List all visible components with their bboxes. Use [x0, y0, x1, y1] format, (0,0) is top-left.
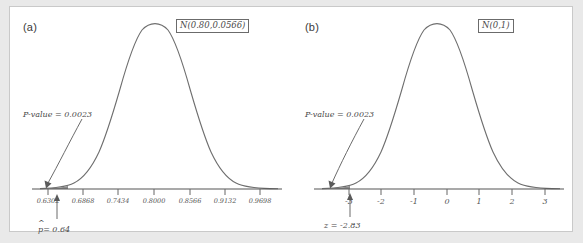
panel-b: (b) N(0,1) P-value = 0.0023 z = -2.83 -3… [292, 7, 574, 233]
panel-b-plot [292, 7, 574, 233]
panel-b-tick-label: 0 [444, 197, 449, 206]
panel-a-tick-label: 0.8000 [143, 197, 166, 205]
panel-a-pvalue-arrow [48, 119, 82, 183]
panel-a-statistic-value: = 0.64 [43, 225, 70, 234]
panel-b-tick-label: 1 [476, 197, 481, 206]
panel-a-tick-label: 0.9132 [214, 197, 237, 205]
panel-a: (a) N(0.80,0.0566) P-value = 0.002 [10, 7, 292, 233]
panel-b-pvalue-arrowhead [329, 181, 336, 189]
panel-a-statistic-label: p= 0.64 [38, 225, 70, 234]
panel-a-tick-label: 0.9698 [249, 197, 272, 205]
panel-b-normal-curve [322, 24, 560, 189]
panel-b-tick-label: 2 [509, 197, 514, 206]
panel-b-tick-label: 3 [542, 197, 547, 206]
panel-a-tick-label: 0.8566 [179, 197, 202, 205]
panel-b-statistic-label: z = -2.83 [324, 221, 361, 230]
panel-b-tick-label: -2 [377, 197, 385, 206]
panel-b-pvalue-label: P-value = 0.0023 [305, 110, 374, 119]
panel-a-tick-label: 0.6868 [72, 197, 95, 205]
panel-a-pvalue-arrowhead [45, 181, 52, 189]
panel-a-normal-curve [40, 24, 278, 189]
panel-a-tick-label: 0.6302 [37, 197, 60, 205]
panel-b-tick-label: -1 [410, 197, 418, 206]
panel-b-tick-label: -3 [345, 197, 353, 206]
panel-a-statistic-symbol: p [38, 225, 43, 234]
panel-b-pvalue-arrow [332, 119, 364, 183]
panel-a-tick-label: 0.7434 [107, 197, 130, 205]
figure-container: (a) N(0.80,0.0566) P-value = 0.002 [9, 6, 573, 232]
panel-a-pvalue-label: P-value = 0.0023 [23, 110, 92, 119]
